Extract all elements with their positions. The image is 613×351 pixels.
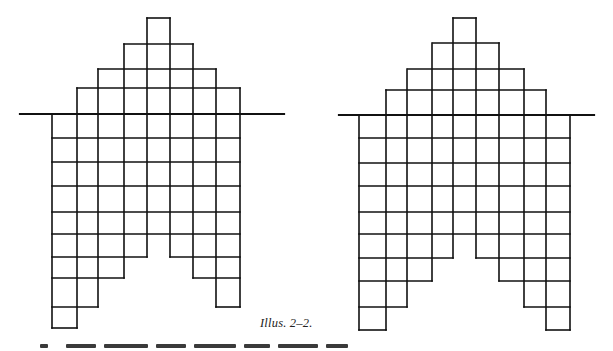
cutoff-text-line <box>0 344 613 351</box>
grid-illustration <box>0 0 613 351</box>
right-arch-grid <box>339 18 594 330</box>
left-arch-grid <box>20 18 284 328</box>
figure-caption: Illus. 2–2. <box>260 316 313 331</box>
